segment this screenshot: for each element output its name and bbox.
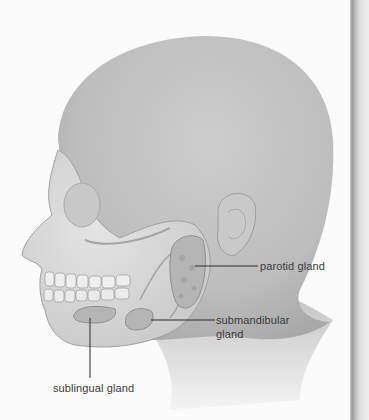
submandibular-gland-label-line1: submandibular — [216, 314, 289, 327]
sublingual-gland — [74, 307, 116, 323]
eye-orbit — [64, 183, 100, 227]
head-illustration — [0, 0, 369, 420]
page-gutter-shadow — [350, 0, 369, 420]
parotid-gland-label: parotid gland — [260, 260, 325, 273]
book-page: parotid gland submandibular gland sublin… — [0, 0, 369, 420]
submandibular-gland-label-line2: gland — [216, 328, 243, 341]
sublingual-gland-label: sublingual gland — [53, 382, 134, 395]
